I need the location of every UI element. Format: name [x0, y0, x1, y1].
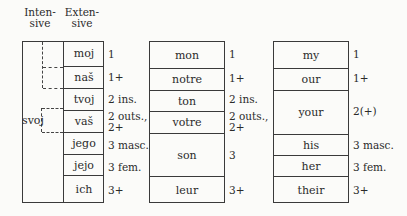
english-row-our: our	[274, 69, 348, 91]
word: your	[298, 106, 323, 119]
header-extensive-line2: sive	[62, 18, 102, 29]
gloss: 3 masc.	[353, 140, 394, 151]
gloss: 1	[353, 49, 360, 60]
english-row-their: their	[274, 177, 348, 203]
gloss: 3 fem.	[108, 162, 141, 173]
gloss: 3+	[353, 185, 368, 196]
word: naš	[74, 71, 93, 84]
word: her	[302, 160, 321, 173]
word: his	[303, 139, 319, 152]
gloss: 1+	[353, 73, 368, 84]
english-row-his: his	[274, 135, 348, 156]
gloss: 3+	[229, 185, 244, 196]
french-row-mon: mon	[150, 42, 224, 69]
header-intensive-line2: sive	[20, 18, 60, 29]
gloss: 1+	[229, 73, 244, 84]
word: mon	[175, 49, 199, 62]
word: tvoj	[74, 93, 95, 106]
word: ton	[178, 95, 196, 108]
word: moj	[74, 47, 94, 60]
french-row-votre: votre	[150, 112, 224, 134]
czech-extensive-column: moj naš tvoj vaš jego jejo ich	[63, 41, 104, 203]
bracket-dashed-vas	[42, 132, 63, 133]
english-row-her: her	[274, 156, 348, 177]
french-row-notre: notre	[150, 69, 224, 91]
header-extensive: Exten- sive	[62, 7, 102, 29]
word: ich	[76, 183, 93, 196]
gloss: 3 fem.	[353, 162, 386, 173]
word: jego	[72, 137, 96, 150]
intensive-svoj: svoj	[22, 114, 44, 127]
word: jejo	[74, 159, 94, 172]
english-row-your: your	[274, 91, 348, 135]
english-table: my our your his her their	[273, 41, 349, 203]
french-row-ton: ton	[150, 91, 224, 112]
gloss: 3	[229, 150, 236, 161]
czech-row-moj: moj	[64, 41, 104, 67]
bracket-dashed-moj	[43, 67, 63, 68]
word: vaš	[75, 115, 93, 128]
gloss: 1	[108, 49, 115, 60]
gloss: 2(+)	[353, 106, 377, 117]
gloss: 3+	[108, 185, 123, 196]
gloss: 2+	[108, 122, 123, 133]
bracket-dashed-tvoj	[42, 108, 63, 109]
bracket-dashed-vertical-upper	[42, 42, 43, 88]
header-intensive: Inten- sive	[20, 7, 60, 29]
french-table: mon notre ton votre son leur	[149, 41, 225, 203]
czech-row-jego: jego	[64, 133, 104, 155]
french-row-son: son	[150, 134, 224, 177]
word: votre	[172, 116, 201, 129]
word: leur	[176, 184, 198, 197]
bracket-dashed-nas	[43, 88, 63, 89]
gloss: 1	[229, 49, 236, 60]
czech-row-nas: naš	[64, 67, 104, 89]
word: our	[302, 73, 321, 86]
gloss: 2 ins.	[229, 94, 258, 105]
word: notre	[172, 73, 202, 86]
word: my	[303, 49, 320, 62]
english-row-my: my	[274, 42, 348, 69]
czech-row-ich: ich	[64, 176, 104, 202]
gloss: 2 ins.	[108, 94, 137, 105]
word: their	[298, 184, 325, 197]
czech-row-jejo: jejo	[64, 155, 104, 176]
gloss: 2+	[229, 122, 244, 133]
gloss: 3 masc.	[108, 140, 149, 151]
gloss: 1+	[108, 72, 123, 83]
word: son	[177, 149, 196, 162]
czech-row-tvoj: tvoj	[64, 89, 104, 111]
french-row-leur: leur	[150, 177, 224, 203]
czech-row-vas: vaš	[64, 111, 104, 133]
